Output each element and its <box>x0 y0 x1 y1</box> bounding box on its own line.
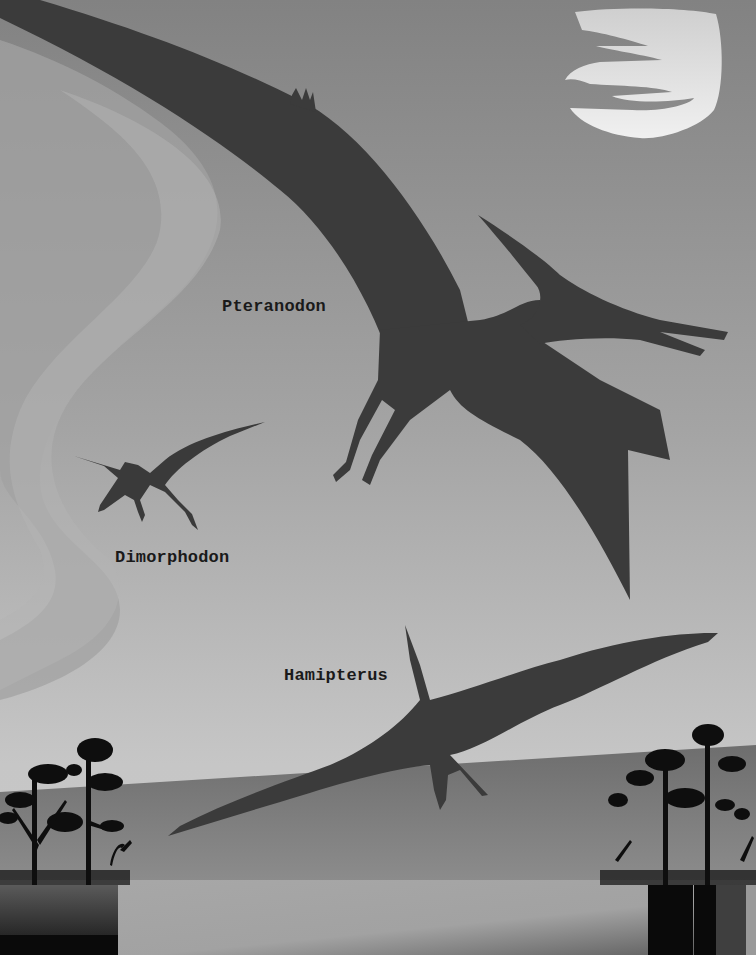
pteranodon-label: Pteranodon <box>222 297 326 316</box>
hamipterus-label: Hamipterus <box>284 666 388 685</box>
scene-illustration <box>0 0 756 955</box>
pterosaur-scene: Pteranodon Dimorphodon Hamipterus <box>0 0 756 955</box>
dimorphodon-label: Dimorphodon <box>115 548 229 567</box>
left-fade <box>0 885 118 935</box>
moon <box>565 8 722 138</box>
